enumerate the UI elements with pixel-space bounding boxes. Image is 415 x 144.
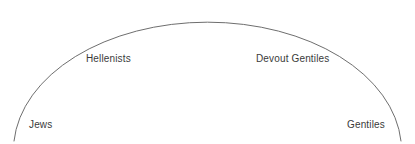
spectrum-arc-path [14, 22, 401, 141]
label-hellenists: Hellenists [86, 53, 131, 65]
label-jews: Jews [29, 119, 52, 131]
label-devout-gentiles: Devout Gentiles [256, 53, 329, 65]
arc-spectrum-diagram: Jews Hellenists Devout Gentiles Gentiles [0, 0, 415, 144]
label-gentiles: Gentiles [347, 119, 385, 131]
